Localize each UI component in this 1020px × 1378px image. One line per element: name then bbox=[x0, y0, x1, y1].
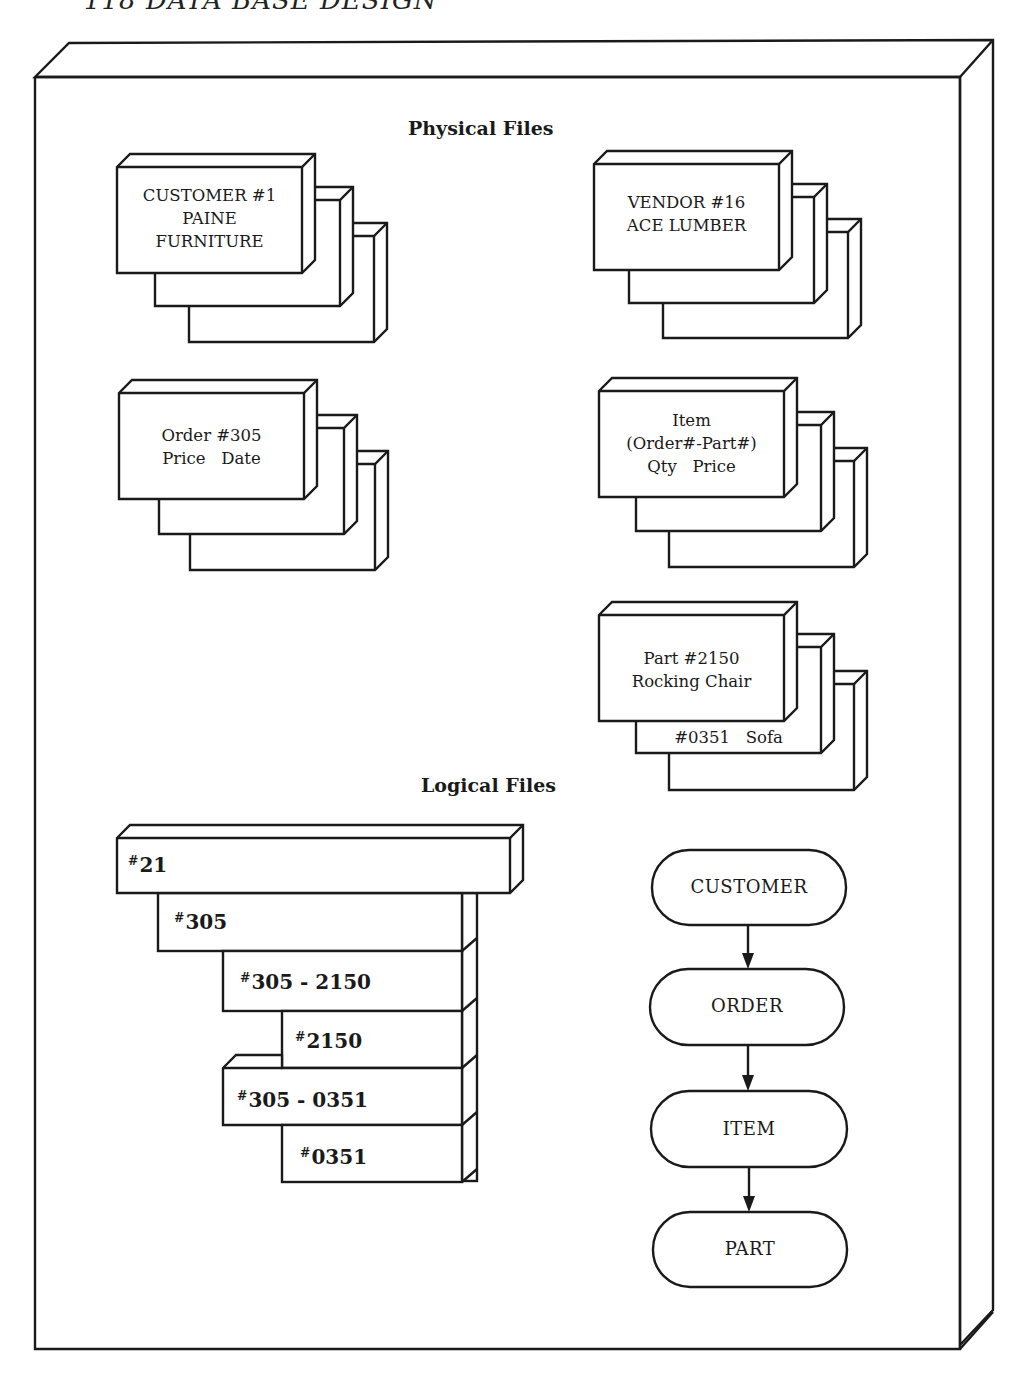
part-second-card-label: #0351 Sofa bbox=[636, 726, 821, 749]
node-order: ORDER bbox=[650, 995, 844, 1016]
node-customer: CUSTOMER bbox=[652, 876, 846, 897]
vendor-file-label: VENDOR #16 ACE LUMBER bbox=[594, 191, 779, 237]
logical-row-305-0351: #305 - 0351 bbox=[237, 1088, 368, 1112]
node-item: ITEM bbox=[651, 1118, 847, 1139]
logical-row-2150: #2150 bbox=[295, 1029, 362, 1053]
logical-row-0351: #0351 bbox=[300, 1145, 367, 1169]
logical-row-305-2150: #305 - 2150 bbox=[240, 970, 371, 994]
order-file-stack bbox=[119, 380, 388, 570]
customer-file-label: CUSTOMER #1 PAINE FURNITURE bbox=[117, 184, 302, 253]
item-file-label: Item (Order#-Part#) Qty Price bbox=[599, 409, 784, 478]
part-file-stack bbox=[599, 602, 867, 790]
part-file-label: Part #2150 Rocking Chair bbox=[599, 647, 784, 693]
logical-files-title: Logical Files bbox=[421, 774, 556, 796]
logical-files-structure bbox=[117, 825, 523, 1182]
physical-files-title: Physical Files bbox=[408, 117, 553, 139]
order-file-label: Order #305 Price Date bbox=[119, 424, 304, 470]
logical-row-21: #21 bbox=[128, 853, 167, 877]
node-part: PART bbox=[653, 1238, 847, 1259]
logical-row-305: #305 bbox=[174, 910, 227, 934]
vendor-file-stack bbox=[594, 151, 861, 338]
hierarchy-flowchart bbox=[650, 850, 847, 1287]
